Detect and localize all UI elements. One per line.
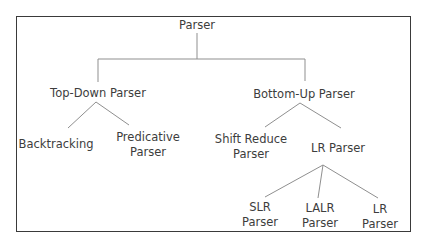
node-predicative-parser: Predicative Parser <box>116 130 180 160</box>
node-lalr-line1: LALR <box>302 201 338 216</box>
node-lalr-line2: Parser <box>302 216 338 231</box>
tree-connectors <box>0 0 423 246</box>
node-slr-line2: Parser <box>242 215 278 230</box>
node-shift-reduce-line2: Parser <box>215 147 287 162</box>
node-lr-canonical-parser: LR Parser <box>362 202 398 232</box>
node-lr-line1: LR <box>362 202 398 217</box>
node-shift-reduce-line1: Shift Reduce <box>215 132 287 147</box>
node-backtracking: Backtracking <box>19 137 94 152</box>
node-parser: Parser <box>179 18 215 33</box>
node-lr-line2: Parser <box>362 217 398 232</box>
node-top-down-parser: Top-Down Parser <box>50 86 146 101</box>
node-predicative-line2: Parser <box>116 145 180 160</box>
node-predicative-line1: Predicative <box>116 130 180 145</box>
node-bottom-up-parser: Bottom-Up Parser <box>253 87 355 102</box>
node-slr-line1: SLR <box>242 200 278 215</box>
node-lr-parser: LR Parser <box>311 141 365 156</box>
node-slr-parser: SLR Parser <box>242 200 278 230</box>
node-shift-reduce-parser: Shift Reduce Parser <box>215 132 287 162</box>
node-lalr-parser: LALR Parser <box>302 201 338 231</box>
